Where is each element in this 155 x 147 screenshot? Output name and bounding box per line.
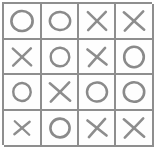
circle-mark-icon [83,79,110,106]
grid-cell-r4c4[interactable] [116,111,154,147]
grid-cell-r1c2[interactable] [42,4,79,40]
grid-cell-r3c4[interactable] [116,75,154,111]
grid-cell-r2c4[interactable] [116,40,154,75]
cross-mark-icon [9,43,35,69]
grid-cell-r2c3[interactable] [79,40,116,75]
circle-mark-icon [46,8,73,35]
circle-mark-icon [121,79,147,105]
cross-mark-icon [120,7,148,35]
cross-mark-icon [82,42,111,71]
grid-cell-r1c4[interactable] [116,4,154,40]
grid-cell-r4c1[interactable] [4,111,42,147]
circle-mark-icon [9,79,34,104]
cross-mark-icon [120,114,148,142]
grid-cell-r4c3[interactable] [79,111,116,147]
grid-cell-r1c3[interactable] [79,4,116,40]
circle-mark-icon [47,44,72,69]
grid-cell-r3c3[interactable] [79,75,116,111]
cross-mark-icon [83,8,109,34]
grid-cell-r1c1[interactable] [4,4,42,40]
grid-cell-r4c2[interactable] [42,111,79,147]
grid-cell-r3c2[interactable] [42,75,79,111]
circle-mark-icon [8,7,36,35]
cross-mark-icon [46,78,74,106]
circle-mark-icon [121,43,147,69]
puzzle-grid [2,2,152,145]
circle-mark-icon [46,115,72,141]
grid-cell-r2c1[interactable] [4,40,42,75]
cross-mark-icon [82,113,111,142]
grid-cell-r3c1[interactable] [4,75,42,111]
cross-mark-icon [9,115,34,140]
grid-cell-r2c2[interactable] [42,40,79,75]
